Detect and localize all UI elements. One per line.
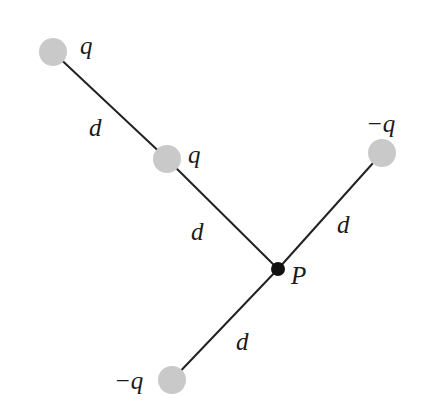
segment-P-to-upper-right — [278, 153, 382, 269]
point-P-label: P — [290, 262, 306, 289]
charge-upper-right-label: −q — [366, 110, 395, 137]
segment-top-left-to-middle-label: d — [89, 114, 102, 141]
charge-diagram: q q −q −q P d d d d — [0, 0, 428, 412]
charge-upper-right — [368, 139, 396, 167]
point-P — [271, 262, 285, 276]
charge-middle-label: q — [188, 141, 201, 168]
segment-P-to-bottom — [172, 269, 278, 380]
segment-top-left-to-middle — [53, 52, 167, 159]
segment-middle-to-P — [167, 159, 278, 269]
segment-P-to-upper-right-label: d — [337, 211, 350, 238]
segment-middle-to-P-label: d — [191, 218, 204, 245]
charge-bottom — [158, 366, 186, 394]
charge-top-left-label: q — [80, 32, 93, 59]
charge-middle — [153, 145, 181, 173]
charge-top-left — [39, 38, 67, 66]
segment-P-to-bottom-label: d — [236, 328, 249, 355]
charge-bottom-label: −q — [114, 367, 143, 394]
